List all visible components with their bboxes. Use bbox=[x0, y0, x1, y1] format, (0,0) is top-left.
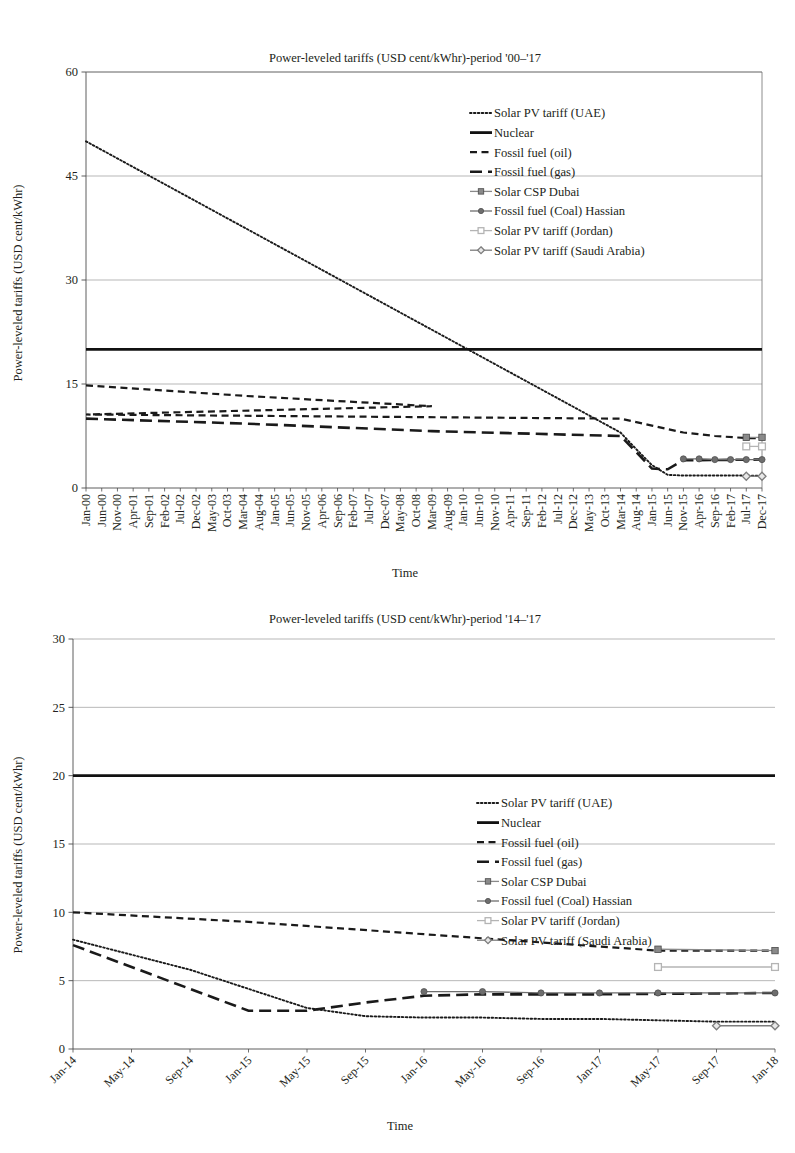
series-marker bbox=[772, 990, 778, 996]
y-tick-label: 10 bbox=[53, 906, 66, 920]
x-tick-label: May-15 bbox=[276, 1053, 313, 1090]
legend-item-8[interactable]: Solar PV tariff (Saudi Arabia) bbox=[470, 244, 645, 258]
x-tick-label: Jan-17 bbox=[573, 1053, 606, 1086]
legend-item-4[interactable]: Fossil fuel (gas) bbox=[470, 165, 575, 179]
legend-item-5[interactable]: Solar CSP Dubai bbox=[477, 875, 587, 889]
x-tick-label: Apr-11 bbox=[503, 494, 517, 528]
x-tick-label: Jun-05 bbox=[283, 494, 297, 527]
x-tick-label: Feb-02 bbox=[158, 494, 172, 528]
x-tick-label: Aug-09 bbox=[441, 494, 455, 531]
y-tick-label: 15 bbox=[66, 377, 79, 391]
chart-bottom: Power-leveled tariffs (USD cent/kWhr)-pe… bbox=[0, 585, 795, 1153]
chart-bottom-x-ticklabels: Jan-14May-14Sep-14Jan-15May-15Sep-15Jan-… bbox=[47, 1049, 782, 1090]
chart-bottom-svg: Power-leveled tariffs (USD cent/kWhr)-pe… bbox=[0, 585, 795, 1153]
series-7 bbox=[655, 964, 779, 971]
series-marker bbox=[759, 443, 766, 450]
x-tick-label: Sep-16 bbox=[513, 1053, 547, 1087]
x-tick-label: Jan-15 bbox=[645, 494, 659, 526]
series-marker bbox=[771, 1022, 779, 1030]
legend-item-4[interactable]: Fossil fuel (gas) bbox=[477, 855, 582, 869]
x-tick-label: Dec-12 bbox=[566, 494, 580, 529]
x-tick-label: Sep-06 bbox=[331, 494, 345, 528]
figure-page: Power-leveled tariffs (USD cent/kWhr)-pe… bbox=[0, 0, 795, 1153]
x-tick-label: Jan-05 bbox=[268, 494, 282, 526]
legend-label: Solar PV tariff (Saudi Arabia) bbox=[494, 244, 645, 258]
x-tick-label: Aug-04 bbox=[252, 494, 266, 531]
legend-label: Solar CSP Dubai bbox=[501, 875, 587, 889]
x-tick-label: Jul-17 bbox=[739, 494, 753, 524]
chart-top-y-ticklabels: 015304560 bbox=[66, 65, 79, 495]
x-tick-label: Dec-02 bbox=[189, 494, 203, 529]
chart-top-x-ticklabels: Jan-00Jun-00Nov-00Apr-01Sep-01Feb-02Jul-… bbox=[79, 488, 769, 532]
series-marker bbox=[478, 208, 483, 213]
series-4 bbox=[86, 419, 762, 470]
series-marker bbox=[743, 434, 749, 440]
chart-bottom-ylabel: Power-leveled tariffs (USD cent/kWhr) bbox=[11, 756, 25, 953]
x-tick-label: Sep-16 bbox=[708, 494, 722, 528]
legend-label: Solar PV tariff (Saudi Arabia) bbox=[501, 934, 652, 948]
chart-top-gridlines bbox=[82, 72, 763, 488]
x-tick-label: Nov-05 bbox=[299, 494, 313, 531]
x-tick-label: May-08 bbox=[393, 494, 407, 532]
x-tick-label: Jan-16 bbox=[398, 1053, 431, 1086]
legend-item-3[interactable]: Fossil fuel (oil) bbox=[470, 146, 572, 160]
series-marker bbox=[742, 472, 750, 480]
legend-item-7[interactable]: Solar PV tariff (Jordan) bbox=[470, 224, 613, 238]
chart-bottom-gridlines bbox=[69, 639, 776, 1049]
series-marker bbox=[759, 456, 765, 462]
series-line bbox=[86, 419, 762, 470]
chart-bottom-legend: Solar PV tariff (UAE)NuclearFossil fuel … bbox=[477, 796, 652, 947]
x-tick-label: May-14 bbox=[101, 1053, 138, 1090]
x-tick-label: Feb-17 bbox=[724, 494, 738, 528]
x-tick-label: Oct-13 bbox=[598, 494, 612, 527]
legend-item-8[interactable]: Solar PV tariff (Saudi Arabia) bbox=[477, 934, 652, 948]
legend-item-5[interactable]: Solar CSP Dubai bbox=[470, 185, 580, 199]
chart-bottom-xlabel: Time bbox=[387, 1119, 413, 1133]
series-marker bbox=[758, 472, 766, 480]
x-tick-label: Jul-02 bbox=[173, 494, 187, 524]
y-tick-label: 30 bbox=[53, 632, 66, 646]
chart-top-series-group bbox=[86, 141, 766, 480]
x-tick-label: Aug-14 bbox=[629, 494, 643, 531]
legend-label: Solar CSP Dubai bbox=[494, 185, 580, 199]
legend-label: Solar PV tariff (UAE) bbox=[501, 796, 612, 810]
x-tick-label: Jan-18 bbox=[749, 1053, 782, 1086]
series-3 bbox=[73, 912, 775, 950]
y-tick-label: 0 bbox=[72, 481, 78, 495]
x-tick-label: Feb-07 bbox=[346, 494, 360, 528]
series-marker bbox=[485, 879, 490, 884]
chart-top-xlabel: Time bbox=[392, 566, 418, 580]
x-tick-label: Oct-08 bbox=[409, 494, 423, 527]
series-3 bbox=[86, 385, 762, 438]
legend-item-3[interactable]: Fossil fuel (oil) bbox=[477, 836, 579, 850]
series-8 bbox=[713, 1022, 780, 1030]
legend-label: Nuclear bbox=[494, 126, 535, 140]
legend-item-6[interactable]: Fossil fuel (Coal) Hassian bbox=[477, 894, 633, 908]
legend-item-6[interactable]: Fossil fuel (Coal) Hassian bbox=[470, 204, 626, 218]
legend-item-2[interactable]: Nuclear bbox=[470, 126, 535, 140]
series-marker bbox=[727, 456, 733, 462]
legend-item-1[interactable]: Solar PV tariff (UAE) bbox=[477, 796, 612, 810]
series-marker bbox=[478, 228, 484, 234]
x-tick-label: Jan-10 bbox=[456, 494, 470, 526]
x-tick-label: Sep-17 bbox=[689, 1053, 723, 1087]
series-marker bbox=[479, 989, 485, 995]
x-tick-label: Mar-09 bbox=[425, 494, 439, 530]
x-tick-label: Jan-00 bbox=[79, 494, 93, 526]
legend-item-2[interactable]: Nuclear bbox=[477, 816, 542, 830]
legend-item-1[interactable]: Solar PV tariff (UAE) bbox=[470, 106, 605, 120]
legend-item-7[interactable]: Solar PV tariff (Jordan) bbox=[477, 914, 620, 928]
series-marker bbox=[655, 964, 662, 971]
y-tick-label: 0 bbox=[59, 1042, 65, 1056]
series-marker bbox=[713, 1022, 721, 1030]
x-tick-label: May-17 bbox=[627, 1053, 664, 1090]
chart-top-ylabel: Power-leveled tariffs (USD cent/kWhr) bbox=[11, 184, 25, 381]
series-marker bbox=[655, 990, 661, 996]
series-line bbox=[86, 141, 762, 476]
series-4 bbox=[73, 945, 775, 1011]
y-tick-label: 20 bbox=[53, 769, 66, 783]
series-marker bbox=[743, 443, 750, 450]
series-line bbox=[73, 945, 775, 1011]
series-marker bbox=[759, 434, 765, 440]
y-tick-label: 45 bbox=[66, 169, 79, 183]
